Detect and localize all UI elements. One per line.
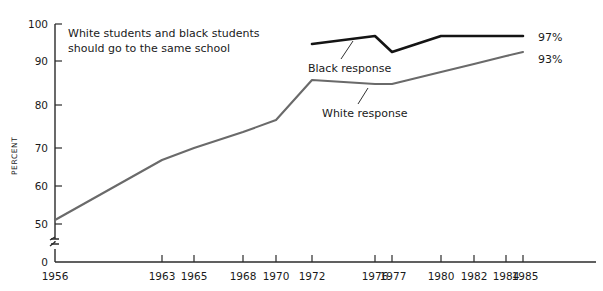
y-tick-marks	[55, 24, 62, 224]
white-response-end-value: 93%	[538, 53, 562, 66]
white-response-line	[55, 52, 523, 220]
line-chart: 100 90 80 70 60 50 0 PERCENT 1956 1963 1…	[0, 0, 603, 291]
x-tick-label-1977: 1977	[380, 270, 407, 282]
x-tick-label-1968: 1968	[230, 270, 257, 282]
x-tick-marks	[162, 255, 523, 262]
x-tick-label-1985: 1985	[512, 270, 539, 282]
x-tick-label-1956: 1956	[42, 270, 69, 282]
y-tick-label-80: 80	[35, 99, 48, 111]
y-tick-label-100: 100	[28, 18, 48, 30]
black-response-end-value: 97%	[538, 31, 562, 44]
y-tick-label-50: 50	[35, 218, 48, 230]
x-tick-label-1965: 1965	[181, 270, 208, 282]
x-tick-label-1970: 1970	[263, 270, 290, 282]
x-tick-label-1972: 1972	[299, 270, 326, 282]
y-tick-label-60: 60	[35, 180, 48, 192]
x-tick-label-1980: 1980	[428, 270, 455, 282]
chart-title-line2: should go to the same school	[68, 42, 230, 55]
chart-container: 100 90 80 70 60 50 0 PERCENT 1956 1963 1…	[0, 0, 603, 291]
x-tick-label-1963: 1963	[149, 270, 176, 282]
black-response-label: Black response	[308, 62, 391, 75]
chart-title-line1: White students and black students	[68, 27, 260, 40]
y-tick-label-0: 0	[41, 256, 48, 268]
black-response-leader	[341, 41, 353, 59]
x-tick-label-1982: 1982	[461, 270, 488, 282]
y-axis-title: PERCENT	[10, 137, 19, 175]
white-response-label: White response	[322, 107, 408, 120]
white-response-leader	[358, 88, 368, 104]
y-tick-label-70: 70	[35, 142, 48, 154]
y-tick-label-90: 90	[35, 55, 48, 67]
black-response-line	[312, 36, 523, 52]
